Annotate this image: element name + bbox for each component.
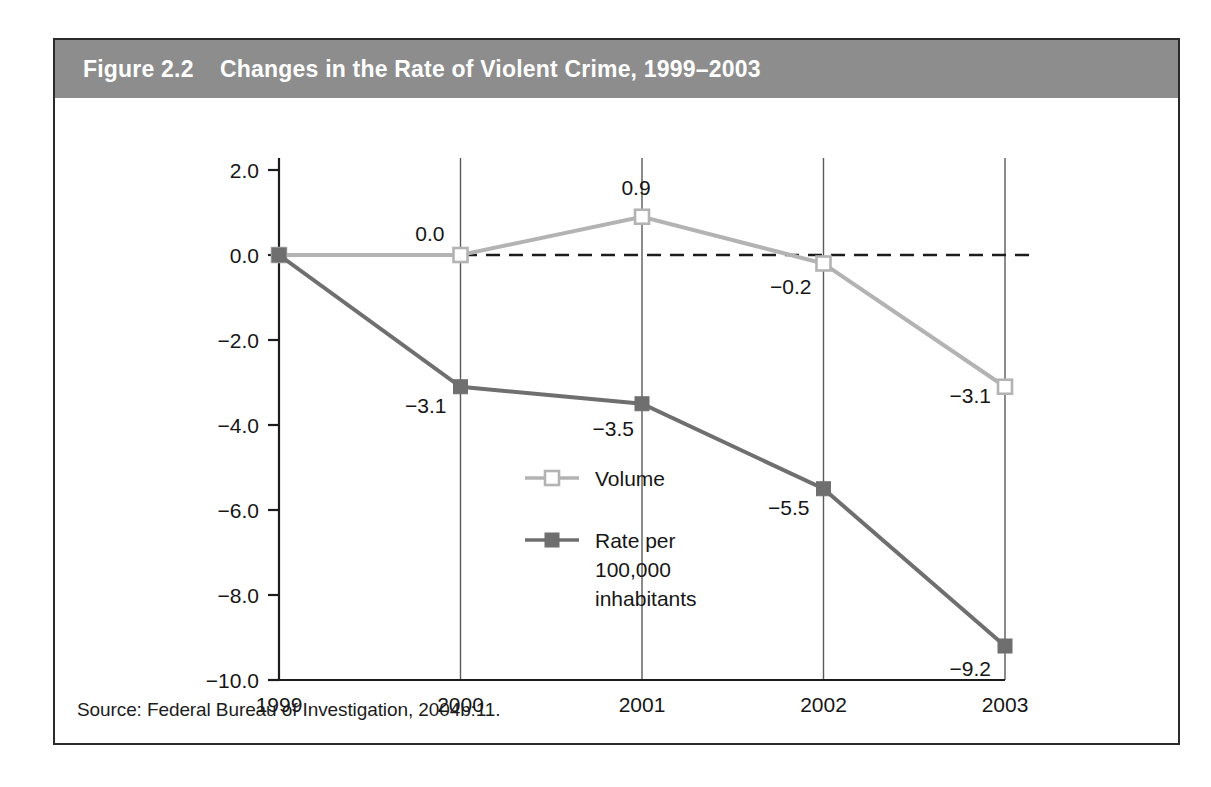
x-axis-tick-label: 2003 (982, 693, 1029, 716)
y-axis-tick-label: 2.0 (230, 159, 259, 182)
data-point-marker (454, 248, 468, 262)
data-point-marker (817, 257, 831, 271)
data-point-label: 0.9 (621, 176, 650, 199)
legend-marker-volume (545, 471, 559, 485)
data-point-marker (635, 210, 649, 224)
data-point-label: −3.1 (950, 384, 991, 407)
data-point-label: −5.5 (768, 496, 809, 519)
figure-container: Figure 2.2 Changes in the Rate of Violen… (53, 38, 1180, 745)
data-point-marker (272, 248, 286, 262)
figure-title: Figure 2.2 Changes in the Rate of Violen… (83, 56, 761, 83)
data-point-label: −0.2 (770, 275, 811, 298)
data-point-marker (817, 482, 831, 496)
legend-label-volume: Volume (595, 467, 665, 490)
data-point-marker (454, 380, 468, 394)
x-axis-tick-label: 2002 (800, 693, 847, 716)
legend-label-rate: Rate per (595, 529, 676, 552)
y-axis-tick-label: −10.0 (206, 669, 259, 692)
line-chart: 2.00.0−2.0−4.0−6.0−8.0−10.01999200020012… (55, 98, 1178, 718)
source-note: Source: Federal Bureau of Investigation,… (77, 699, 500, 721)
data-point-label: −9.2 (950, 657, 991, 680)
y-axis-tick-label: −8.0 (218, 584, 259, 607)
y-axis-tick-label: −6.0 (218, 499, 259, 522)
data-point-label: 0.0 (415, 222, 444, 245)
data-point-label: −3.5 (593, 417, 634, 440)
data-point-marker (998, 639, 1012, 653)
legend-label-rate: 100,000 (595, 558, 671, 581)
y-axis-tick-label: 0.0 (230, 244, 259, 267)
legend-label-rate: inhabitants (595, 587, 697, 610)
data-point-marker (635, 397, 649, 411)
y-axis-tick-label: −4.0 (218, 414, 259, 437)
data-point-marker (998, 380, 1012, 394)
data-point-label: −3.1 (405, 394, 446, 417)
x-axis-tick-label: 2001 (619, 693, 666, 716)
chart-plot-area: 2.00.0−2.0−4.0−6.0−8.0−10.01999200020012… (55, 98, 1178, 718)
figure-header-band: Figure 2.2 Changes in the Rate of Violen… (55, 40, 1178, 98)
legend-marker-rate (545, 533, 559, 547)
y-axis-tick-label: −2.0 (218, 329, 259, 352)
